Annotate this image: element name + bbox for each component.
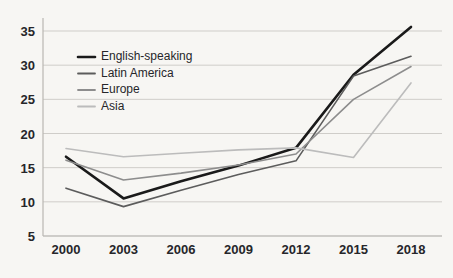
x-tick-label-2003: 2003: [109, 242, 138, 257]
legend: English-speakingLatin AmericaEuropeAsia: [78, 49, 192, 113]
legend-label-asia: Asia: [101, 99, 125, 113]
x-tick-label-2018: 2018: [397, 242, 426, 257]
x-tick-label-2006: 2006: [167, 242, 196, 257]
y-tick-label-15: 15: [21, 161, 35, 176]
chart-canvas: 3530252015105 20002003200620092012201520…: [0, 0, 453, 278]
y-tick-label-25: 25: [21, 92, 35, 107]
legend-label-latin-america: Latin America: [101, 66, 174, 80]
x-tick-label-2000: 2000: [52, 242, 81, 257]
y-axis-tick-labels: 3530252015105: [21, 24, 35, 244]
x-tick-label-2015: 2015: [339, 242, 368, 257]
x-axis-tick-labels: 2000200320062009201220152018: [52, 242, 426, 257]
y-tick-label-10: 10: [21, 195, 35, 210]
y-tick-label-30: 30: [21, 58, 35, 73]
y-tick-label-35: 35: [21, 24, 35, 39]
y-tick-label-5: 5: [28, 229, 35, 244]
x-tick-label-2009: 2009: [224, 242, 253, 257]
x-tick-label-2012: 2012: [282, 242, 311, 257]
y-tick-label-20: 20: [21, 127, 35, 142]
legend-label-english-speaking: English-speaking: [101, 49, 192, 63]
line-chart: 3530252015105 20002003200620092012201520…: [0, 0, 453, 278]
legend-label-europe: Europe: [101, 82, 140, 96]
